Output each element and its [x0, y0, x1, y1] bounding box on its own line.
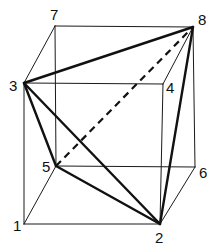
tetrahedron-edge-3-2 [24, 83, 160, 224]
vertex-label-8: 8 [198, 11, 206, 28]
vertex-label-5: 5 [42, 158, 50, 175]
cube-edge-8-7 [55, 26, 193, 27]
vertex-label-7: 7 [50, 6, 58, 23]
vertex-label-6: 6 [199, 164, 207, 181]
vertex-label-4: 4 [166, 79, 174, 96]
vertex-label-1: 1 [13, 217, 21, 234]
vertex-label-2: 2 [155, 229, 163, 246]
cube-tetrahedron-diagram: 1 2 3 4 5 6 7 8 [0, 0, 220, 252]
cube-edge-6-8 [193, 27, 195, 167]
cube-edge-5-7 [55, 26, 56, 166]
tetrahedron-edge-8-2 [160, 27, 193, 224]
cube-edge-3-4 [24, 83, 163, 84]
cube-edge-5-1 [24, 166, 56, 224]
tetrahedron-edge-3-5 [24, 83, 56, 166]
cube-edge-6-5 [56, 166, 195, 167]
tetrahedron-edge-5-2 [56, 166, 160, 224]
vertex-label-3: 3 [9, 77, 17, 94]
tetrahedron-edges [24, 27, 193, 224]
